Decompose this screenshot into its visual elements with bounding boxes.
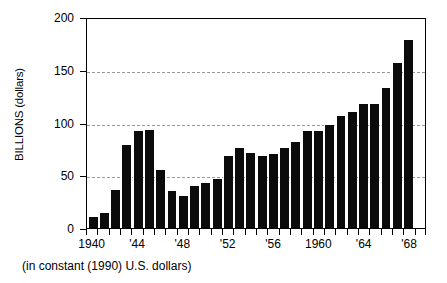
x-axis-tick-label: 1940 [78,237,105,251]
x-axis-tick [177,229,178,235]
y-axis-tick-100 [80,124,86,125]
x-axis-tick [347,229,348,235]
bar-slot [290,19,301,228]
bar-slot [335,19,346,228]
x-tick-slot [267,229,278,236]
bar [324,125,334,228]
bar [336,116,346,228]
x-tick-slot [279,229,290,236]
x-tick-slot [97,229,108,236]
bar-slot [312,19,323,228]
x-axis-tick [381,229,382,235]
x-axis-tick [324,229,325,235]
bar [381,88,391,228]
bar-slot [267,19,278,228]
x-axis-tick [313,229,314,235]
bar-slot [301,19,312,228]
bar-chart-figure: BILLIONS (dollars) 050100150200 1940'44'… [0,0,447,283]
x-axis-tick [403,229,404,235]
x-axis-tick [279,229,280,235]
x-axis-tick [86,229,87,235]
bar [245,153,255,228]
x-axis-tick-label: '56 [265,237,281,251]
bar-slot [211,19,222,228]
y-axis-tick-label: 200 [34,12,74,24]
x-axis-tick [211,229,212,235]
bar-slot [98,19,109,228]
bar-slot [402,19,413,228]
bar [212,179,222,228]
x-tick-slot [358,229,369,236]
x-tick-slot [335,229,346,236]
bar [347,112,357,228]
x-axis-tick-label: '68 [401,237,417,251]
x-tick-slot [324,229,335,236]
x-axis-tick [392,229,393,235]
x-axis-tick-labels: 1940'44'48'52'561960'64'68 [86,237,426,252]
bar-slot [380,19,391,228]
bar [313,131,323,228]
bar [178,196,188,228]
y-axis-tick-150 [80,71,86,72]
bar [223,156,233,228]
x-axis-tick [120,229,121,235]
x-axis-tick [109,229,110,235]
x-tick-slot [233,229,244,236]
x-axis-tick [188,229,189,235]
x-tick-slot [120,229,131,236]
bar-slot [177,19,188,228]
bar-slot [245,19,256,228]
bar [279,148,289,228]
chart-footnote: (in constant (1990) U.S. dollars) [22,259,191,273]
y-axis-title: BILLIONS (dollars) [8,0,30,229]
bar [155,170,165,228]
bar-slot [233,19,244,228]
x-axis-tick [369,229,370,235]
x-tick-slot [290,229,301,236]
bar-slot [200,19,211,228]
y-axis-tick-200 [80,18,86,19]
plot-area [86,18,426,229]
x-tick-slot [188,229,199,236]
bar-slot [188,19,199,228]
x-axis-tick [131,229,132,235]
x-axis-tick-label: '64 [356,237,372,251]
x-axis-tick [425,229,426,235]
bar [392,63,402,228]
bar [121,145,131,228]
bar [268,154,278,228]
bar-slot [166,19,177,228]
bar-slot [87,19,98,228]
x-axis-tick [267,229,268,235]
bar-slot [391,19,402,228]
x-tick-slot [109,229,120,236]
bar-slot [143,19,154,228]
x-tick-slot [245,229,256,236]
x-axis-tick [290,229,291,235]
bar [99,213,109,228]
y-axis-tick-label: 50 [34,170,74,182]
bar [290,142,300,229]
bar [189,186,199,228]
x-axis-tick-label: 1960 [305,237,332,251]
y-axis-tick-label: 150 [34,65,74,77]
x-tick-slot [165,229,176,236]
bar [257,156,267,228]
x-tick-slot [369,229,380,236]
bar [369,104,379,228]
bar-slot [222,19,233,228]
bar-slot [110,19,121,228]
x-axis-tick [233,229,234,235]
bar-slot [346,19,357,228]
x-tick-slot [199,229,210,236]
bar-slot [155,19,166,228]
x-axis-tick [97,229,98,235]
bar-slot [132,19,143,228]
x-tick-slot [392,229,403,236]
y-axis-tick-label: 100 [34,118,74,130]
x-axis-tick [199,229,200,235]
x-tick-slot [347,229,358,236]
bar [358,104,368,228]
x-axis-tick [358,229,359,235]
bar [88,217,98,228]
